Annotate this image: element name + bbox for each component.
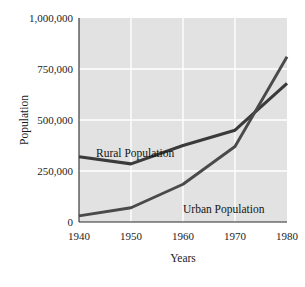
x-axis-tick-labels: 1940 1950 1960 1970 1980	[68, 230, 299, 242]
x-tick-label-1950: 1950	[120, 230, 143, 242]
y-tick-label-0: 0	[68, 216, 74, 228]
series-label-rural: Rural Population	[96, 147, 175, 160]
y-tick-label-750000: 750,000	[37, 63, 73, 75]
chart-canvas: 1,000,000 750,000 500,000 250,000 0 1940…	[0, 0, 305, 287]
x-tick-label-1960: 1960	[172, 230, 195, 242]
x-tick-label-1980: 1980	[276, 230, 299, 242]
x-tick-label-1970: 1970	[224, 230, 247, 242]
population-line-chart: 1,000,000 750,000 500,000 250,000 0 1940…	[0, 0, 305, 287]
y-tick-label-500000: 500,000	[37, 114, 73, 126]
x-axis-title: Years	[170, 252, 196, 264]
y-tick-label-250000: 250,000	[37, 165, 73, 177]
y-axis-title: Population	[18, 95, 31, 145]
x-tick-label-1940: 1940	[68, 230, 91, 242]
series-label-urban: Urban Population	[183, 203, 265, 216]
y-axis-tick-labels: 1,000,000 750,000 500,000 250,000 0	[29, 12, 74, 228]
y-tick-label-1000000: 1,000,000	[29, 12, 74, 24]
